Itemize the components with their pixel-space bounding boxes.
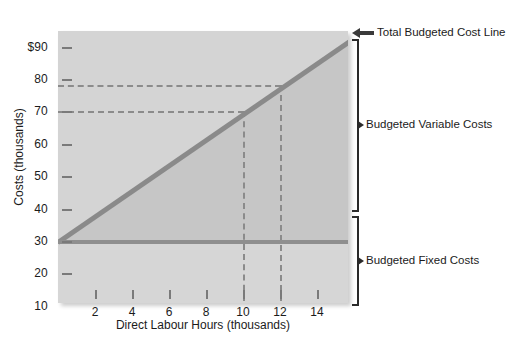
x-axis-label-14: 14 bbox=[304, 305, 330, 319]
y-tick-30 bbox=[62, 241, 72, 243]
x-tick-10 bbox=[243, 290, 245, 299]
budgeted-fixed-cost-line bbox=[58, 240, 348, 244]
x-tick-2 bbox=[95, 290, 97, 299]
x-axis-label-2: 2 bbox=[82, 305, 108, 319]
x-axis-title: Direct Labour Hours (thousands) bbox=[58, 318, 348, 332]
y-axis-label-20: 20 bbox=[8, 266, 48, 280]
total-cost-line-arrow-shaft bbox=[360, 31, 374, 35]
total-cost-line-arrow-icon bbox=[352, 28, 360, 38]
budgeted-fixed-costs-label: Budgeted Fixed Costs bbox=[366, 254, 479, 266]
x-tick-14 bbox=[317, 290, 319, 299]
total-budgeted-cost-line-label: Total Budgeted Cost Line bbox=[377, 26, 506, 38]
budgeted-variable-costs-label: Budgeted Variable Costs bbox=[366, 118, 492, 130]
y-axis-label-80: 80 bbox=[8, 72, 48, 86]
x-axis-label-4: 4 bbox=[119, 305, 145, 319]
y-tick-60 bbox=[62, 144, 72, 146]
y-tick-70 bbox=[62, 111, 72, 113]
y-axis-label-30: 30 bbox=[8, 234, 48, 248]
x-axis-label-6: 6 bbox=[156, 305, 182, 319]
x-axis-label-10: 10 bbox=[230, 305, 256, 319]
y-axis-label-90: $90 bbox=[8, 40, 48, 54]
y-axis-title: Costs (thousands) bbox=[12, 92, 26, 222]
x-tick-6 bbox=[169, 290, 171, 299]
budgeted-fixed-costs-region bbox=[58, 242, 348, 303]
budgeted-variable-costs-brace-point bbox=[358, 121, 364, 129]
x-axis-label-8: 8 bbox=[193, 305, 219, 319]
y-tick-80 bbox=[62, 79, 72, 81]
cost-70-guide-line bbox=[58, 111, 244, 113]
y-tick-20 bbox=[62, 273, 72, 275]
cost-78-guide-line bbox=[58, 85, 281, 87]
x-axis-label-12: 12 bbox=[267, 305, 293, 319]
plot-area bbox=[58, 31, 348, 303]
budgeted-fixed-costs-brace-point bbox=[358, 257, 364, 265]
y-tick-40 bbox=[62, 209, 72, 211]
hours-10-guide-line bbox=[243, 111, 245, 301]
y-tick-50 bbox=[62, 176, 72, 178]
y-tick-90 bbox=[62, 47, 72, 49]
y-axis-label-10: 10 bbox=[8, 299, 48, 313]
x-tick-4 bbox=[132, 290, 134, 299]
x-tick-8 bbox=[206, 290, 208, 299]
x-tick-12 bbox=[280, 290, 282, 299]
hours-12-guide-line bbox=[280, 85, 282, 301]
